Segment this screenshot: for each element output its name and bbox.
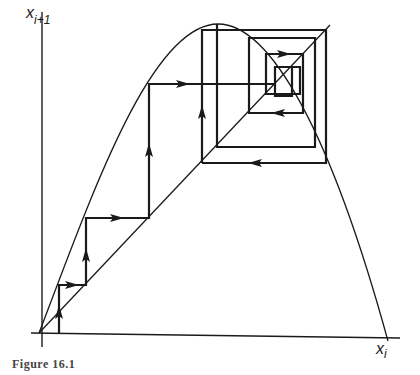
- x-axis: [31, 333, 400, 338]
- map-curve: [39, 24, 388, 341]
- identity-line: [39, 25, 330, 333]
- y-axis-label: xi+1: [26, 4, 50, 25]
- x-axis-label: xi: [376, 340, 387, 361]
- cobweb-diagram: [0, 0, 420, 375]
- figure-caption: Figure 16.1: [12, 357, 75, 372]
